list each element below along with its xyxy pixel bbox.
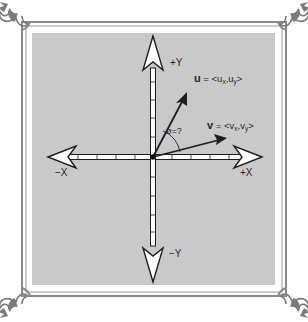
diagram-canvas: +Y −Y −X +X ø=? u = <ux,uy> v = <vx,vy> — [0, 0, 308, 322]
pos-y-label: +Y — [170, 57, 183, 68]
angle-label: ø=? — [166, 126, 182, 136]
origin-point — [150, 154, 156, 160]
corner-flourish-icon — [0, 2, 28, 26]
pos-x-label: +X — [240, 167, 253, 178]
corner-flourish-icon — [280, 2, 308, 26]
neg-y-label: −Y — [169, 248, 182, 259]
corner-flourish-icon — [280, 294, 308, 318]
neg-x-label: −X — [55, 167, 68, 178]
vector-diagram: +Y −Y −X +X ø=? u = <ux,uy> v = <vx,vy> — [0, 0, 308, 322]
corner-flourish-icon — [0, 294, 28, 318]
